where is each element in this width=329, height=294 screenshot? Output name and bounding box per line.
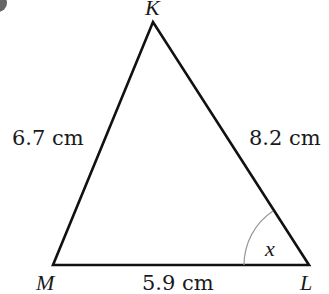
side-km-label: 6.7 cm [12,126,84,150]
vertex-l-label: L [299,270,312,294]
angle-x-label: x [264,236,275,261]
vertex-m-label: M [35,270,56,294]
side-ml-label: 5.9 cm [142,271,214,294]
triangle-diagram: K M L 6.7 cm 8.2 cm 5.9 cm x [0,0,329,294]
vertex-k-label: K [144,0,161,20]
side-kl-label: 8.2 cm [249,126,321,150]
corner-marker [0,0,7,12]
